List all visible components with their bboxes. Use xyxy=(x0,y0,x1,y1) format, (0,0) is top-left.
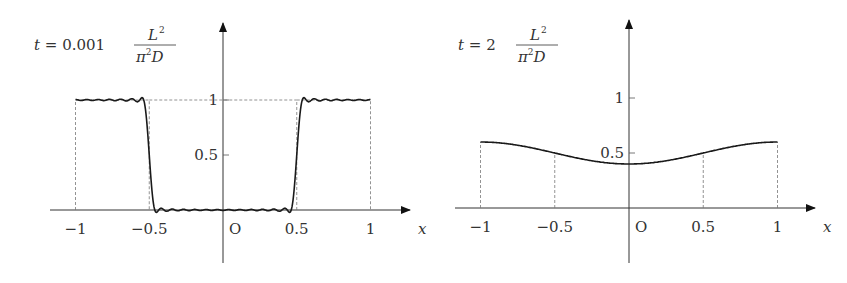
x-tick-label: −1 xyxy=(64,220,86,238)
plot-left-t-0.001: t = 0.001L2π2DxO−1−0.50.510.51 xyxy=(34,23,427,263)
svg-text:t = 0.001: t = 0.001 xyxy=(34,36,105,54)
x-axis-label: x xyxy=(823,218,832,236)
title-numerator: L xyxy=(529,26,540,44)
x-axis-label: x xyxy=(418,220,427,238)
chart-title: t = 0.001L2π2D xyxy=(34,25,176,66)
title-numerator: L xyxy=(147,26,158,44)
title-denominator: π2D xyxy=(135,47,164,66)
x-tick-label: 1 xyxy=(773,218,783,236)
plot-right-t-2: t = 2L2π2DxO−1−0.50.510.51 xyxy=(455,20,832,263)
origin-label: O xyxy=(229,220,241,238)
svg-text:2: 2 xyxy=(541,25,547,35)
y-tick-label: 0.5 xyxy=(194,146,218,164)
title-denominator: π2D xyxy=(517,47,546,66)
chart-title: t = 2L2π2D xyxy=(458,25,558,66)
y-tick-label: 0.5 xyxy=(600,144,624,162)
figure-canvas: t = 0.001L2π2DxO−1−0.50.510.51 t = 2L2π2… xyxy=(0,0,847,283)
x-tick-label: −0.5 xyxy=(131,220,167,238)
x-tick-label: 1 xyxy=(366,220,376,238)
y-tick-label: 1 xyxy=(614,89,624,107)
origin-label: O xyxy=(635,218,647,236)
x-tick-label: −1 xyxy=(469,218,491,236)
x-tick-label: −0.5 xyxy=(537,218,573,236)
svg-text:t = 2: t = 2 xyxy=(458,36,496,54)
x-tick-label: 0.5 xyxy=(285,220,309,238)
x-tick-label: 0.5 xyxy=(691,218,715,236)
svg-text:2: 2 xyxy=(159,25,165,35)
